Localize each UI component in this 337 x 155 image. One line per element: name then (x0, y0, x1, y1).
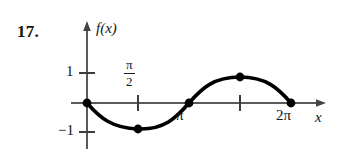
data-point (185, 99, 194, 108)
figure-container: 17. (0, 0, 337, 155)
x-axis-label: x (315, 110, 322, 125)
y-tick-label-negative-1: −1 (58, 123, 74, 138)
data-point (236, 73, 245, 82)
y-axis (83, 21, 91, 149)
data-point (83, 99, 92, 108)
x-tick-label-half-pi: π 2 (124, 58, 135, 88)
x-tick-label-pi: π (176, 108, 184, 123)
half-pi-denominator: 2 (124, 74, 135, 89)
data-point (134, 125, 143, 134)
y-tick-label-1: 1 (66, 64, 74, 79)
half-pi-numerator: π (124, 58, 135, 73)
y-axis-label: f(x) (96, 21, 117, 36)
x-tick-label-two-pi: 2π (276, 108, 291, 123)
graph-canvas (0, 0, 337, 155)
